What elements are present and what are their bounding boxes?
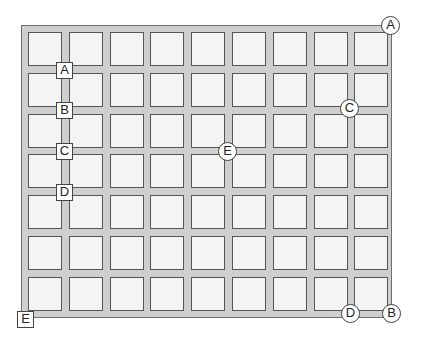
grid-cell	[28, 32, 62, 66]
grid-cell	[232, 73, 266, 107]
grid-cell	[191, 73, 225, 107]
square-label-d: D	[56, 184, 73, 201]
grid-cell	[191, 277, 225, 311]
square-label-c: C	[56, 143, 73, 160]
circle-label-a: A	[381, 16, 400, 35]
circle-label-e: E	[218, 142, 237, 161]
grid-cell	[354, 32, 388, 66]
grid-cell	[69, 114, 103, 148]
grid-cell	[191, 236, 225, 270]
square-label-a: A	[56, 62, 73, 79]
grid-cell	[354, 277, 388, 311]
grid-cell	[110, 236, 144, 270]
grid-cell	[314, 277, 348, 311]
grid-cell	[69, 32, 103, 66]
grid-cell	[150, 277, 184, 311]
grid-cell	[69, 73, 103, 107]
grid-cell	[232, 277, 266, 311]
grid-cell	[110, 32, 144, 66]
grid-cell	[28, 277, 62, 311]
grid-cell	[110, 114, 144, 148]
grid-cell	[232, 32, 266, 66]
grid-cell	[110, 73, 144, 107]
grid-cell	[273, 73, 307, 107]
grid-cell	[150, 236, 184, 270]
grid-cell	[232, 236, 266, 270]
grid-cell	[354, 154, 388, 188]
circle-label-d: D	[341, 304, 360, 323]
grid-cell	[69, 236, 103, 270]
grid-cell	[110, 154, 144, 188]
grid-cell	[354, 236, 388, 270]
grid-cell	[191, 195, 225, 229]
grid-cell	[354, 114, 388, 148]
grid-cell	[273, 277, 307, 311]
square-label-b: B	[56, 102, 73, 119]
grid-cell	[273, 236, 307, 270]
grid-cell	[110, 277, 144, 311]
grid-cell	[314, 114, 348, 148]
grid-cell	[232, 154, 266, 188]
grid-cell	[150, 73, 184, 107]
circle-label-c: C	[340, 99, 359, 118]
grid-cell	[273, 154, 307, 188]
grid-cell	[150, 154, 184, 188]
grid-cell	[273, 32, 307, 66]
grid-frame	[21, 25, 392, 318]
grid-cell	[69, 277, 103, 311]
grid-cell	[232, 195, 266, 229]
grid-cell	[69, 195, 103, 229]
grid-cell	[191, 32, 225, 66]
grid-cell	[110, 195, 144, 229]
grid-cell	[150, 114, 184, 148]
grid-cell	[273, 195, 307, 229]
grid-cell	[150, 32, 184, 66]
grid-cell	[69, 154, 103, 188]
grid-cell	[314, 236, 348, 270]
grid-cell	[150, 195, 184, 229]
grid-cell	[273, 114, 307, 148]
grid-cell	[314, 154, 348, 188]
square-label-e: E	[17, 311, 34, 328]
grid-cell	[28, 236, 62, 270]
grid-cell	[354, 195, 388, 229]
circle-label-b: B	[382, 304, 401, 323]
grid-cell	[191, 114, 225, 148]
grid-cell	[191, 154, 225, 188]
grid-cell	[354, 73, 388, 107]
grid-cell	[314, 195, 348, 229]
grid-cell	[232, 114, 266, 148]
grid-cell	[314, 32, 348, 66]
